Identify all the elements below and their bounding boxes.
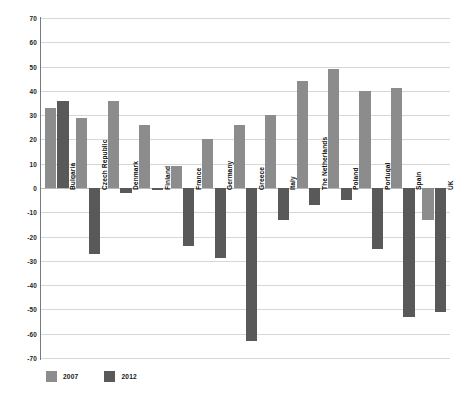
y-axis-tick-label: 70	[3, 15, 37, 22]
bar-group: Denmark	[104, 18, 135, 358]
bar-2007	[108, 101, 119, 188]
bar-2007	[422, 188, 433, 220]
bar-2012	[403, 188, 414, 317]
bar-group: Germany	[198, 18, 229, 358]
bar-2012	[215, 188, 226, 258]
bar-2012	[152, 188, 163, 190]
bar-2007	[139, 125, 150, 188]
bar-group: Poland	[324, 18, 355, 358]
x-axis-category-label: UK	[447, 180, 454, 190]
bar-2007	[234, 125, 245, 188]
bar-group: Spain	[387, 18, 418, 358]
bar-2012	[372, 188, 383, 249]
bar-2007	[297, 81, 308, 188]
legend-item[interactable]: 2007	[46, 371, 78, 382]
bar-2012	[341, 188, 352, 200]
gridline	[41, 358, 450, 359]
bar-group: Czech Republic	[72, 18, 103, 358]
bar-group: Greece	[230, 18, 261, 358]
y-axis-tick-label: -50	[3, 306, 37, 313]
y-axis-tick-label: 60	[3, 39, 37, 46]
chart-legend: 20072012	[46, 371, 137, 382]
y-axis-tick-label: 10	[3, 160, 37, 167]
legend-item[interactable]: 2012	[104, 371, 136, 382]
legend-label: 2012	[121, 373, 136, 380]
bar-2007	[76, 118, 87, 188]
bar-2012	[183, 188, 194, 246]
y-axis-tick-labels: 706050403020100-10-20-30-40-50-60-70	[0, 18, 37, 358]
bar-group: Bulgaria	[41, 18, 72, 358]
bar-2012	[309, 188, 320, 205]
y-axis-tick-label: -20	[3, 233, 37, 240]
legend-label: 2007	[63, 373, 78, 380]
bar-2007	[359, 91, 370, 188]
bar-2007	[202, 139, 213, 188]
y-axis-tick-label: 0	[3, 185, 37, 192]
bar-group: UK	[419, 18, 450, 358]
bar-group: Italy	[261, 18, 292, 358]
bar-chart: 706050403020100-10-20-30-40-50-60-70 Bul…	[0, 0, 461, 403]
y-axis-tick-label: 20	[3, 136, 37, 143]
bar-2012	[120, 188, 131, 193]
legend-swatch-icon	[104, 371, 115, 382]
bar-2007	[265, 115, 276, 188]
y-axis-tick-label: -10	[3, 209, 37, 216]
y-axis-tick-label: 50	[3, 63, 37, 70]
y-axis-tick-label: -60	[3, 330, 37, 337]
bar-2012	[246, 188, 257, 341]
legend-swatch-icon	[46, 371, 57, 382]
bar-group: The Netherlands	[293, 18, 324, 358]
bar-2012	[57, 101, 68, 188]
bar-2007	[171, 166, 182, 188]
bar-2007	[328, 69, 339, 188]
bar-2012	[89, 188, 100, 254]
bars-layer: BulgariaCzech RepublicDenmarkFinlandFran…	[41, 18, 450, 358]
y-axis-tick-label: 30	[3, 112, 37, 119]
y-axis-tick-label: 40	[3, 87, 37, 94]
y-axis-tick-label: -40	[3, 282, 37, 289]
bar-group: Finland	[135, 18, 166, 358]
bar-group: Portugal	[356, 18, 387, 358]
bar-2007	[45, 108, 56, 188]
y-axis-tick-label: -70	[3, 355, 37, 362]
bar-2012	[435, 188, 446, 312]
bar-2012	[278, 188, 289, 220]
bar-2007	[391, 88, 402, 188]
bar-group: France	[167, 18, 198, 358]
y-axis-tick-label: -30	[3, 257, 37, 264]
